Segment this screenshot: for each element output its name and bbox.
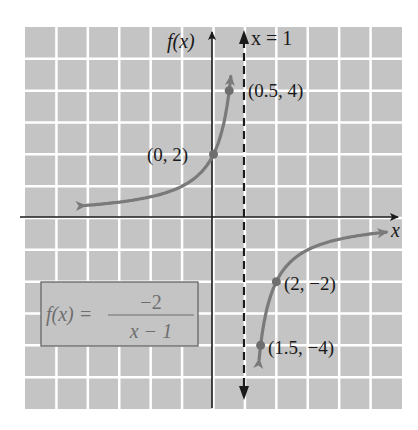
- point-label-0-2: (0, 2): [147, 144, 188, 166]
- chart-canvas: f(x) x x = 1 (0, 2) (0.5, 4) (2, −2) (1.…: [0, 0, 418, 430]
- data-point: [209, 150, 218, 159]
- y-axis-label: f(x): [167, 30, 195, 53]
- point-label-2-neg2: (2, −2): [284, 273, 336, 295]
- formula-denominator: x − 1: [129, 320, 172, 342]
- asymptote-label: x = 1: [251, 27, 292, 49]
- x-axis-label: x: [390, 219, 400, 241]
- formula-box: f(x) = −2 x − 1: [41, 282, 198, 346]
- data-point: [256, 341, 265, 350]
- data-point: [225, 86, 234, 95]
- point-label-0.5-4: (0.5, 4): [248, 80, 303, 102]
- point-label-1.5-neg4: (1.5, −4): [268, 337, 334, 359]
- formula-lhs: f(x) =: [46, 303, 92, 326]
- data-point: [272, 277, 281, 286]
- formula-numerator: −2: [140, 291, 161, 313]
